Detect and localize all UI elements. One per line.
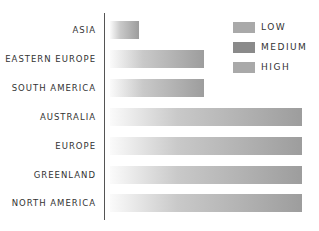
bar-greenland	[110, 166, 302, 184]
y-axis-line	[104, 13, 105, 220]
bar-south-america	[110, 79, 204, 97]
bar-asia	[110, 21, 139, 39]
legend-swatch-low	[233, 22, 255, 33]
bar-europe	[110, 137, 302, 155]
legend-label-medium: MEDIUM	[261, 42, 307, 53]
bar-eastern-europe	[110, 50, 204, 68]
category-label: EASTERN EUROPE	[5, 50, 96, 68]
legend-label-low: LOW	[261, 22, 286, 33]
category-label: ASIA	[72, 21, 96, 39]
category-label: NORTH AMERICA	[12, 194, 96, 212]
legend-swatch-medium	[233, 42, 255, 53]
bar-australia	[110, 108, 302, 126]
legend-swatch-high	[233, 62, 255, 73]
category-label: SOUTH AMERICA	[12, 79, 96, 97]
category-label: AUSTRALIA	[40, 108, 96, 126]
category-label: GREENLAND	[34, 166, 96, 184]
legend-label-high: HIGH	[261, 62, 290, 73]
category-label: EUROPE	[55, 137, 96, 155]
bar-north-america	[110, 194, 302, 212]
